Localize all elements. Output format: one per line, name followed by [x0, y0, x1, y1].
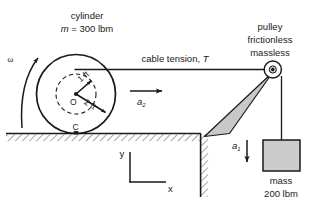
- ground-surface: [6, 134, 201, 142]
- diagram-canvas: 1 ft 2 ft O C ω: [0, 0, 311, 203]
- omega-rotation-indicator: [22, 58, 38, 128]
- cable-tension-label: cable tension, T: [141, 53, 209, 64]
- pulley-title-label: pulley: [258, 21, 283, 32]
- cylinder-contact-point: [74, 131, 79, 134]
- wall-support: [201, 134, 209, 198]
- cylinder-title-label: cylinder: [71, 10, 104, 21]
- ground-hatching: [6, 134, 201, 141]
- physics-diagram-figure: 1 ft 2 ft O C ω: [0, 0, 311, 203]
- wall-hatching: [201, 134, 208, 197]
- omega-curved-arrow: [22, 58, 38, 128]
- pulley-massless-label: massless: [250, 47, 290, 58]
- mass-title-label: mass: [270, 175, 293, 186]
- center-point-label: O: [70, 97, 77, 107]
- mass-value-label: 200 lbm: [264, 188, 298, 199]
- mass-block: [263, 140, 300, 171]
- pulley-frictionless-label: frictionless: [248, 34, 293, 45]
- hanging-mass: [263, 140, 300, 171]
- accel-mass-label: a1: [232, 140, 241, 152]
- pulley-bracket: [205, 72, 274, 137]
- coordinate-axes: [129, 152, 166, 183]
- pulley-assembly: [205, 61, 282, 137]
- omega-label: ω: [8, 55, 14, 64]
- pulley-axle-point: [271, 68, 274, 71]
- cylinder-mass-label: m = 300 lbm: [61, 23, 114, 34]
- contact-point-label: C: [73, 122, 79, 132]
- axis-x-label: x: [168, 183, 173, 194]
- axis-y-label: y: [120, 148, 125, 159]
- accel-cylinder-label: a2: [137, 96, 146, 108]
